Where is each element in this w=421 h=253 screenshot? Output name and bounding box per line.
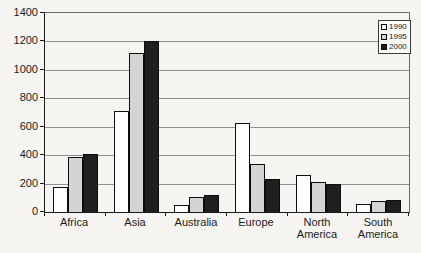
y-axis-tick-label: 1200 [0, 35, 38, 46]
plot-area [44, 12, 410, 213]
legend-item-2000: 2000 [381, 43, 407, 51]
legend-swatch-1990 [381, 24, 387, 30]
y-axis-tick-label: 800 [0, 92, 38, 103]
legend-label: 1990 [389, 23, 407, 31]
x-axis-category-label-north-america: North America [286, 216, 348, 240]
bar-europe-2000 [265, 179, 280, 212]
y-axis-tick-label: 200 [0, 178, 38, 189]
bar-australia-1990 [174, 205, 189, 212]
bar-australia-1995 [189, 197, 204, 212]
x-axis-category-label-asia: Asia [104, 216, 166, 228]
legend-label: 1995 [389, 33, 407, 41]
y-axis-tick-mark [40, 183, 44, 184]
bar-asia-1990 [114, 111, 129, 212]
bar-group-asia [106, 13, 166, 212]
y-axis-tick-label: 1000 [0, 64, 38, 75]
y-axis-tick-label: 600 [0, 121, 38, 132]
legend: 199019952000 [378, 20, 411, 54]
bar-africa-2000 [83, 154, 98, 212]
x-axis-category-label-australia: Australia [165, 216, 227, 228]
bar-group-north-america [288, 13, 348, 212]
y-axis-tick-mark [40, 69, 44, 70]
bar-asia-1995 [129, 53, 144, 212]
legend-item-1995: 1995 [381, 33, 407, 41]
legend-label: 2000 [389, 43, 407, 51]
bar-group-australia [166, 13, 227, 212]
x-axis-category-label-europe: Europe [225, 216, 287, 228]
bar-europe-1995 [250, 164, 265, 212]
bar-group-africa [45, 13, 106, 212]
y-axis-tick-mark [40, 154, 44, 155]
bar-africa-1995 [68, 157, 83, 212]
x-axis-category-label-south-america: South America [347, 216, 409, 240]
bar-north-america-2000 [326, 184, 341, 212]
x-axis-category-label-africa: Africa [43, 216, 105, 228]
bar-europe-1990 [235, 123, 250, 212]
bar-south-america-1990 [356, 204, 371, 212]
bar-south-america-1995 [371, 201, 386, 212]
bar-north-america-1990 [296, 175, 311, 212]
y-axis-tick-label: 1400 [0, 7, 38, 18]
chart-canvas: 0200400600800100012001400 AfricaAsiaAust… [0, 0, 421, 253]
y-axis-tick-label: 400 [0, 149, 38, 160]
legend-swatch-2000 [381, 44, 387, 50]
bar-north-america-1995 [311, 182, 326, 212]
bar-south-america-2000 [386, 200, 401, 212]
bar-asia-2000 [144, 41, 159, 212]
bar-australia-2000 [204, 195, 219, 212]
y-axis-tick-mark [40, 40, 44, 41]
y-axis-tick-label: 0 [0, 206, 38, 217]
y-axis-tick-mark [40, 12, 44, 13]
y-axis-tick-mark [40, 126, 44, 127]
bar-africa-1990 [53, 187, 68, 212]
legend-swatch-1995 [381, 34, 387, 40]
y-axis-tick-mark [40, 97, 44, 98]
legend-item-1990: 1990 [381, 23, 407, 31]
bar-group-europe [227, 13, 288, 212]
